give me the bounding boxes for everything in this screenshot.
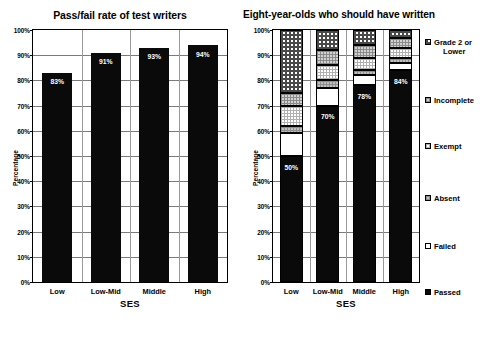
stack-segment-passed (353, 85, 376, 282)
y-axis-tick-label: 50% (257, 153, 270, 160)
stack-segment-exempt (280, 106, 303, 126)
stacked-bar (316, 30, 339, 282)
x-axis-tick-label: Low (284, 287, 299, 296)
bar-value-label: 94% (196, 51, 210, 58)
y-axis-tick-label: 100% (14, 27, 30, 34)
y-axis-tick-mark (30, 156, 33, 157)
bar-value-label: 83% (50, 78, 64, 85)
y-axis-tick-label: 30% (17, 203, 30, 210)
y-axis-tick-mark (270, 257, 273, 258)
category-separator (346, 30, 347, 282)
stack-segment-grade-2-or-lower (353, 30, 376, 45)
stack-segment-failed (389, 63, 412, 71)
y-axis-tick-mark (30, 106, 33, 107)
legend-swatch-icon (425, 97, 431, 103)
stack-segment-grade-2-or-lower (316, 30, 339, 50)
y-axis-tick-label: 90% (17, 52, 30, 59)
x-axis-tick-label: Middle (353, 287, 376, 296)
y-axis-tick-mark (270, 80, 273, 81)
y-axis-tick-label: 40% (257, 178, 270, 185)
legend-item-label: Failed (434, 242, 456, 251)
y-axis-tick-mark (270, 106, 273, 107)
bar (91, 53, 121, 282)
x-axis-tick-label: Low-Mid (313, 287, 343, 296)
y-axis-tick-mark (270, 30, 273, 31)
stack-segment-passed (316, 106, 339, 282)
stack-segment-exempt (389, 48, 412, 58)
bar (42, 73, 72, 282)
y-axis-tick-label: 10% (17, 253, 30, 260)
stack-segment-absent (316, 80, 339, 88)
right-chart-plot-area: 0%10%20%30%40%50%60%70%80%90%100%LowLow-… (272, 29, 420, 283)
x-axis-tick-label: Low-Mid (91, 287, 121, 296)
y-axis-tick-label: 50% (17, 153, 30, 160)
legend-item[interactable]: Incomplete (425, 96, 474, 105)
y-axis-tick-label: 70% (17, 102, 30, 109)
bar (139, 48, 169, 282)
stack-segment-incomplete (280, 93, 303, 106)
y-axis-tick-label: 40% (17, 178, 30, 185)
category-separator (82, 30, 83, 282)
right-chart-title: Eight-year-olds who should have written (243, 9, 435, 20)
legend-item[interactable]: Passed (425, 288, 461, 297)
y-axis-tick-mark (30, 232, 33, 233)
stacked-bar (280, 30, 303, 282)
bar-value-label: 91% (99, 58, 113, 65)
y-axis-tick-label: 60% (17, 127, 30, 134)
legend-item-label: Absent (434, 194, 460, 203)
y-axis-tick-mark (270, 55, 273, 56)
right-chart-panel: Eight-year-olds who should have written … (240, 0, 495, 347)
y-axis-tick-mark (270, 156, 273, 157)
y-axis-tick-mark (270, 131, 273, 132)
x-axis-title: SES (120, 298, 140, 309)
legend-item[interactable]: Failed (425, 242, 456, 251)
y-axis-tick-label: 0% (261, 279, 270, 286)
stack-segment-incomplete (353, 45, 376, 58)
stack-segment-failed (353, 75, 376, 85)
stack-segment-passed (280, 156, 303, 282)
legend-swatch-icon (425, 243, 431, 249)
bar-value-label: 70% (321, 113, 335, 120)
stack-segment-absent (353, 70, 376, 75)
stack-segment-absent (280, 126, 303, 134)
y-axis-tick-label: 80% (17, 77, 30, 84)
y-axis-tick-label: 10% (257, 253, 270, 260)
left-chart-panel: Pass/fail rate of test writers Percentag… (0, 0, 240, 347)
y-axis-tick-mark (270, 206, 273, 207)
category-separator (179, 30, 180, 282)
legend-item[interactable]: Exempt (425, 142, 461, 151)
category-separator (383, 30, 384, 282)
left-chart-title: Pass/fail rate of test writers (0, 9, 240, 21)
legend-swatch-icon (425, 195, 431, 201)
y-axis-tick-label: 20% (257, 228, 270, 235)
legend-item[interactable]: Grade 2 orLower (425, 38, 490, 57)
y-axis-tick-mark (270, 181, 273, 182)
legend-item[interactable]: Absent (425, 194, 460, 203)
x-axis-tick-label: High (195, 287, 211, 296)
y-axis-tick-label: 100% (254, 27, 270, 34)
y-axis-tick-mark (270, 232, 273, 233)
y-axis-tick-mark (30, 181, 33, 182)
y-axis-tick-label: 80% (257, 77, 270, 84)
stack-segment-grade-2-or-lower (280, 30, 303, 93)
x-axis-title: SES (336, 298, 356, 309)
legend-item-label: Exempt (434, 142, 461, 151)
stacked-bar (353, 30, 376, 282)
legend-item-label: Grade 2 orLower (434, 38, 490, 57)
stack-segment-failed (316, 88, 339, 106)
stack-segment-passed (389, 70, 412, 282)
stacked-bar (389, 30, 412, 282)
y-axis-tick-mark (30, 282, 33, 283)
stack-segment-exempt (316, 65, 339, 80)
stack-segment-exempt (353, 58, 376, 71)
left-chart-plot-area: 0%10%20%30%40%50%60%70%80%90%100%LowLow-… (32, 29, 228, 283)
y-axis-tick-mark (30, 206, 33, 207)
bar-value-label: 93% (147, 53, 161, 60)
category-separator (310, 30, 311, 282)
legend-item-label: Incomplete (434, 96, 474, 105)
y-axis-tick-label: 90% (257, 52, 270, 59)
y-axis-tick-label: 70% (257, 102, 270, 109)
y-axis-tick-label: 60% (257, 127, 270, 134)
stack-segment-failed (280, 133, 303, 156)
x-axis-tick-label: Low (50, 287, 65, 296)
